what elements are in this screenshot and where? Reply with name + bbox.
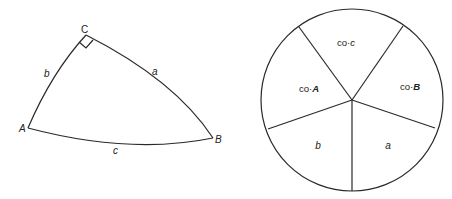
side-label-a: a: [152, 66, 158, 77]
side-c-arc: [28, 128, 213, 145]
spoke-left: [268, 100, 352, 129]
spoke-right: [352, 100, 435, 128]
side-label-c: c: [113, 145, 118, 156]
spherical-triangle: [28, 35, 213, 145]
segment-label-co-b: co·B: [400, 81, 420, 92]
side-b-arc: [28, 35, 86, 128]
side-a-arc: [86, 35, 213, 138]
vertex-label-a: A: [18, 123, 26, 134]
segment-label-a: a: [385, 140, 391, 151]
vertex-label-c: C: [81, 24, 88, 35]
vertex-label-b: B: [215, 134, 222, 145]
spoke-upper-right: [352, 26, 403, 100]
segment-label-co-c: co·c: [337, 37, 355, 48]
side-label-b: b: [44, 68, 50, 79]
segment-label-co-a: co·A: [299, 83, 319, 94]
diagram-canvas: C A B b a c co·c co·B a b co·A: [0, 0, 452, 199]
segment-label-b: b: [315, 140, 321, 151]
